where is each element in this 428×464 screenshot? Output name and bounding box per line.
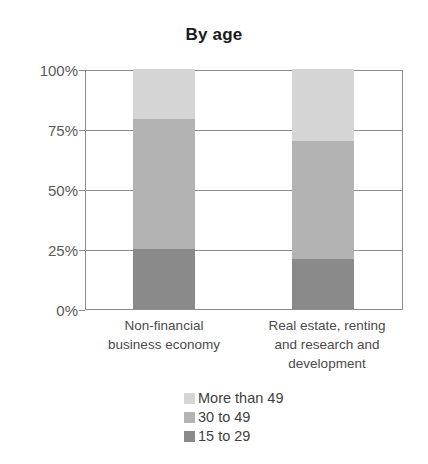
plot-area (85, 70, 403, 310)
x-axis-label-real-estate-renting-research-development: Real estate, renting and research and de… (239, 316, 415, 373)
x-axis-label-line: and research and (239, 335, 415, 354)
bar-segment-15-to-29[interactable] (292, 259, 354, 309)
y-axis-tick-marks (0, 70, 85, 310)
y-tick-mark-0 (79, 310, 85, 311)
x-axis-label-line: Non-financial (79, 316, 249, 335)
legend-label: More than 49 (198, 389, 283, 408)
legend-swatch-icon (184, 431, 195, 442)
x-axis-label-line: development (239, 354, 415, 373)
legend-item-30-to-49[interactable]: 30 to 49 (0, 408, 428, 427)
bar-non-financial-business-economy[interactable] (133, 69, 195, 309)
legend-swatch-icon (184, 412, 195, 423)
legend-item-more-than-49[interactable]: More than 49 (0, 389, 428, 408)
legend-label: 15 to 29 (198, 427, 250, 446)
bar-segment-more-than-49[interactable] (292, 69, 354, 141)
bar-segment-15-to-29[interactable] (133, 249, 195, 309)
x-axis-label-line: business economy (79, 335, 249, 354)
legend-label: 30 to 49 (198, 408, 250, 427)
bar-real-estate-renting-research-development[interactable] (292, 69, 354, 309)
chart-legend: More than 49 30 to 49 15 to 29 (0, 389, 428, 446)
bar-segment-more-than-49[interactable] (133, 69, 195, 119)
x-axis-label-line: Real estate, renting (239, 316, 415, 335)
legend-item-15-to-29[interactable]: 15 to 29 (0, 427, 428, 446)
x-axis-labels: Non-financial business economy Real esta… (85, 316, 403, 388)
x-axis-label-non-financial-business-economy: Non-financial business economy (79, 316, 249, 354)
legend-swatch-icon (184, 393, 195, 404)
chart-title: By age (0, 25, 428, 45)
bar-segment-30-to-49[interactable] (133, 119, 195, 249)
chart-container: By age 100% 75% 50% 25% 0% (0, 0, 428, 464)
bar-segment-30-to-49[interactable] (292, 141, 354, 259)
